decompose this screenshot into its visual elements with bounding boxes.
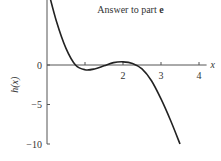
y-tick-label: −5 — [31, 99, 42, 110]
y-axis-label: h(x) — [9, 76, 21, 93]
axes: 100−5−10234xh(x) — [9, 0, 216, 150]
y-tick-label: −10 — [26, 139, 42, 150]
y-tick-label: 0 — [37, 60, 42, 71]
x-axis-label: x — [210, 59, 216, 70]
x-tick-label: 2 — [121, 70, 126, 81]
x-tick-label: 4 — [197, 70, 202, 81]
x-tick-label: 3 — [159, 70, 164, 81]
chart-canvas: 100−5−10234xh(x) — [0, 0, 221, 161]
